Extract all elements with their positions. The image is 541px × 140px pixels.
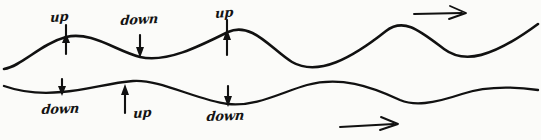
label-down-lower-trough-1: down — [41, 102, 80, 116]
label-down-upper-trough-1: down — [120, 12, 158, 27]
label-up-upper-crest-2: up — [215, 5, 233, 20]
label-up-upper-crest-1: up — [50, 10, 69, 24]
down-arrow-upper-trough-1 — [136, 35, 144, 58]
wave-motion-sketch: up down up down up down — [0, 0, 541, 140]
up-arrow-lower-crest-1 — [121, 84, 129, 113]
label-down-lower-trough-2: down — [206, 109, 245, 123]
lower-wave-curve — [4, 81, 538, 105]
down-arrow-lower-trough-1 — [58, 79, 66, 96]
up-arrow-upper-crest-1 — [62, 25, 70, 54]
upper-wave-curve — [4, 24, 538, 69]
up-arrow-upper-crest-2 — [223, 20, 231, 55]
propagation-arrow-upper — [414, 6, 466, 19]
label-up-lower-crest-1: up — [133, 106, 152, 120]
sketch-canvas — [0, 0, 541, 140]
propagation-arrow-lower — [340, 117, 398, 130]
